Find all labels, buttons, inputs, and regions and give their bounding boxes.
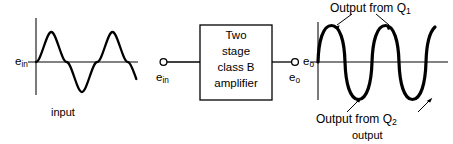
q2-annotation-pointers [347, 98, 432, 112]
amplifier-box-line-4: amplifier [200, 78, 272, 94]
output-plot [310, 22, 448, 100]
output-caption: output [352, 130, 383, 141]
input-terminal-icon [160, 59, 167, 66]
block-output-terminal-label: eo [289, 72, 300, 84]
input-caption: input [51, 107, 75, 118]
output-axis-label: eo [303, 56, 314, 68]
amplifier-box-line-1: Two [200, 30, 272, 46]
block-input-terminal-label: ein [156, 72, 169, 84]
output-terminal-icon [292, 59, 299, 66]
q2-pointer-right-line [418, 101, 429, 112]
q1-pointer-right-line [376, 14, 389, 25]
q1-pointer-left-line [337, 14, 352, 25]
input-plot [28, 18, 138, 95]
q2-pointer-left-line [347, 101, 358, 112]
q2-annotation-label: Output from Q2 [316, 113, 397, 125]
amplifier-box-line-2: stage [200, 46, 272, 62]
q1-annotation-label: Output from Q1 [330, 2, 411, 14]
amplifier-box-label: Two stage class B amplifier [200, 30, 272, 94]
input-axis-label: ein [15, 56, 28, 68]
amplifier-box-line-3: class B [200, 62, 272, 78]
class-b-amplifier-figure: ein input ein Two stage class B amplifie… [0, 0, 453, 144]
q1-annotation-pointers [333, 14, 393, 30]
